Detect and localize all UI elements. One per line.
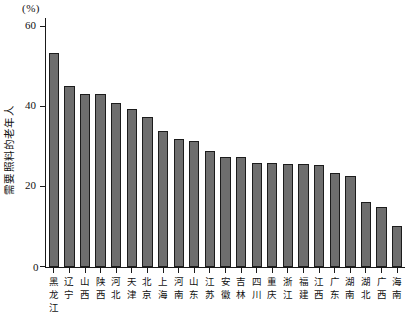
x-axis-tick-label: 福建 bbox=[298, 275, 309, 317]
x-tick-slot bbox=[108, 268, 124, 273]
bar[interactable] bbox=[283, 164, 293, 267]
x-axis-tick-label: 北京 bbox=[142, 275, 153, 317]
x-label-slot: 北京 bbox=[140, 275, 156, 317]
x-axis-tick bbox=[53, 268, 54, 273]
bar-slot bbox=[296, 27, 312, 267]
bar[interactable] bbox=[392, 226, 402, 267]
bar[interactable] bbox=[174, 139, 184, 267]
y-axis-tick-label: 60 bbox=[25, 19, 36, 32]
x-label-slot: 陕西 bbox=[93, 275, 109, 317]
bar[interactable] bbox=[189, 141, 199, 267]
bar[interactable] bbox=[330, 173, 340, 267]
bar-slot bbox=[389, 27, 405, 267]
x-label-slot: 吉林 bbox=[233, 275, 249, 317]
bar[interactable] bbox=[252, 163, 262, 267]
x-label-slot: 广东 bbox=[327, 275, 343, 317]
x-axis-tick bbox=[365, 268, 366, 273]
x-tick-slot bbox=[358, 268, 374, 273]
x-axis-tick bbox=[350, 268, 351, 273]
bar[interactable] bbox=[267, 163, 277, 267]
bar-slot bbox=[93, 27, 109, 267]
bar-slot bbox=[327, 27, 343, 267]
x-label-slot: 湖南 bbox=[343, 275, 359, 317]
x-axis-tick-label: 江西 bbox=[314, 275, 325, 317]
x-tick-slot bbox=[93, 268, 109, 273]
y-axis-tick: 60 bbox=[40, 26, 45, 27]
x-axis-tick bbox=[397, 268, 398, 273]
x-label-slot: 河北 bbox=[108, 275, 124, 317]
bar-slot bbox=[171, 27, 187, 267]
y-axis-tick-label: 20 bbox=[25, 179, 36, 192]
bar-slot bbox=[249, 27, 265, 267]
x-label-slot: 河南 bbox=[171, 275, 187, 317]
x-axis-tick bbox=[209, 268, 210, 273]
bar[interactable] bbox=[49, 53, 59, 267]
x-label-slot: 海南 bbox=[389, 275, 405, 317]
bar[interactable] bbox=[127, 109, 137, 267]
x-axis-tick-label: 陕西 bbox=[95, 275, 106, 317]
bar[interactable] bbox=[220, 157, 230, 267]
bar-slot bbox=[77, 27, 93, 267]
bar-slot bbox=[343, 27, 359, 267]
x-axis-tick bbox=[131, 268, 132, 273]
bar-slot bbox=[233, 27, 249, 267]
x-tick-slot bbox=[218, 268, 234, 273]
x-tick-slot bbox=[124, 268, 140, 273]
bar[interactable] bbox=[345, 176, 355, 267]
bar[interactable] bbox=[205, 151, 215, 267]
x-axis-tick bbox=[116, 268, 117, 273]
bar-slot bbox=[374, 27, 390, 267]
x-label-slot: 四川 bbox=[249, 275, 265, 317]
x-axis-tick bbox=[178, 268, 179, 273]
x-label-slot: 广西 bbox=[374, 275, 390, 317]
bar[interactable] bbox=[95, 94, 105, 267]
bar-slot bbox=[155, 27, 171, 267]
x-label-slot: 湖北 bbox=[358, 275, 374, 317]
x-axis-tick bbox=[85, 268, 86, 273]
x-tick-slot bbox=[171, 268, 187, 273]
y-axis-tick bbox=[40, 266, 45, 267]
bar[interactable] bbox=[314, 165, 324, 267]
bar[interactable] bbox=[361, 202, 371, 267]
x-axis-tick-label: 四川 bbox=[251, 275, 262, 317]
bar[interactable] bbox=[80, 94, 90, 267]
x-label-slot: 安徽 bbox=[218, 275, 234, 317]
bar[interactable] bbox=[64, 86, 74, 267]
bar-slot bbox=[202, 27, 218, 267]
bar[interactable] bbox=[111, 103, 121, 267]
y-axis-unit-label: (%) bbox=[22, 2, 40, 15]
bar[interactable] bbox=[158, 131, 168, 267]
x-axis-tick bbox=[256, 268, 257, 273]
x-tick-slot bbox=[155, 268, 171, 273]
bar-slot bbox=[46, 27, 62, 267]
x-axis-tick-label: 重庆 bbox=[267, 275, 278, 317]
bar[interactable] bbox=[298, 164, 308, 267]
bar-slot bbox=[218, 27, 234, 267]
x-axis-tick bbox=[287, 268, 288, 273]
bar-slot bbox=[62, 27, 78, 267]
x-axis-tick bbox=[100, 268, 101, 273]
x-tick-slot bbox=[233, 268, 249, 273]
x-tick-slot bbox=[77, 268, 93, 273]
x-axis-tick-label: 广西 bbox=[376, 275, 387, 317]
x-axis-tick bbox=[381, 268, 382, 273]
bar-slot bbox=[140, 27, 156, 267]
plot-area: 204060 bbox=[45, 27, 405, 268]
x-axis-tick-label: 湖北 bbox=[360, 275, 371, 317]
x-label-slot: 浙江 bbox=[280, 275, 296, 317]
x-axis-tick bbox=[225, 268, 226, 273]
bar[interactable] bbox=[236, 157, 246, 267]
bar-slot bbox=[311, 27, 327, 267]
x-label-slot: 重庆 bbox=[265, 275, 281, 317]
bar-slot bbox=[358, 27, 374, 267]
x-axis-tick bbox=[272, 268, 273, 273]
bar[interactable] bbox=[142, 117, 152, 267]
x-axis-tick-label: 天津 bbox=[126, 275, 137, 317]
x-axis-tick-label: 山西 bbox=[80, 275, 91, 317]
bar-slot bbox=[124, 27, 140, 267]
bar-slot bbox=[265, 27, 281, 267]
bar[interactable] bbox=[376, 207, 386, 267]
x-axis-tick-label: 上海 bbox=[158, 275, 169, 317]
x-tick-slot bbox=[374, 268, 390, 273]
x-tick-slot bbox=[202, 268, 218, 273]
